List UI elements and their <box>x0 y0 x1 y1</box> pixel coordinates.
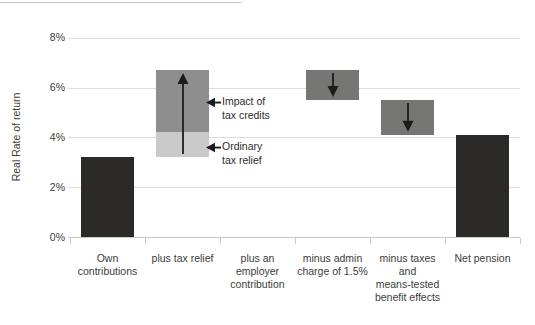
category-label-minus-admin-charge-of-1-5: minus admin charge of 1.5% <box>291 252 375 278</box>
y-tick-label-2pct: 2% <box>35 181 65 194</box>
bar-net-pension <box>456 135 509 237</box>
gridline-4pct <box>68 137 520 138</box>
waterfall-chart: Real Rate of return 0%2%4%6%8%Own contri… <box>0 0 535 325</box>
x-axis-tick <box>370 238 371 244</box>
x-axis-tick <box>445 238 446 244</box>
y-tick-label-4pct: 4% <box>35 131 65 144</box>
down-arrow-icon <box>401 103 415 132</box>
down-arrow-icon <box>326 73 340 97</box>
y-tick-label-8pct: 8% <box>35 31 65 44</box>
up-arrow-icon <box>176 73 190 154</box>
x-axis-tick <box>145 238 146 244</box>
y-tick-label-0pct: 0% <box>35 231 65 244</box>
category-label-plus-tax-relief: plus tax relief <box>141 252 225 265</box>
gridline-2pct <box>68 187 520 188</box>
gridline-8pct <box>68 38 520 39</box>
category-label-net-pension: Net pension <box>441 252 525 265</box>
x-axis-tick <box>220 238 221 244</box>
y-tick-label-6pct: 6% <box>35 81 65 94</box>
x-axis-tick <box>520 238 521 244</box>
category-label-minus-taxes-and-means-tested-benefit-effects: minus taxes and means-tested benefit eff… <box>366 252 450 304</box>
x-axis-tick <box>70 238 71 244</box>
category-label-plus-an-employer-contribution: plus an employer contribution <box>216 252 300 291</box>
left-arrow-icon <box>206 142 221 153</box>
category-label-own-contributions: Own contributions <box>66 252 150 278</box>
top-border-line <box>0 2 242 3</box>
annotation-impact-of-tax-credits: Impact of tax credits <box>222 95 270 122</box>
bar-own-contributions <box>81 157 134 237</box>
gridline-6pct <box>68 88 520 89</box>
x-axis-line <box>68 237 520 238</box>
y-axis-title: Real Rate of return <box>10 87 24 187</box>
left-arrow-icon <box>206 97 221 108</box>
x-axis-tick <box>295 238 296 244</box>
annotation-ordinary-tax-relief: Ordinary tax relief <box>222 140 262 167</box>
